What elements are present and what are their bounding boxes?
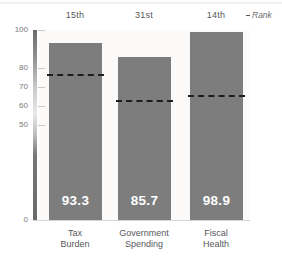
y-axis-tick-mark [38, 30, 45, 31]
rank-line-tax-burden [47, 74, 104, 76]
rank-header-row: 15th 31st 14th Rank [0, 8, 282, 24]
dashed-line-icon [246, 15, 250, 17]
y-axis-tick-mark [38, 87, 45, 88]
bar-value-tax-burden: 93.3 [49, 194, 103, 208]
category-label-line-2: Health [178, 239, 254, 250]
y-axis-strip [33, 30, 37, 220]
rank-line-fiscal-health [188, 95, 245, 97]
rank-legend-label: Rank [252, 10, 272, 20]
bar-value-fiscal-health: 98.9 [190, 194, 244, 208]
rank-legend: Rank [246, 8, 272, 22]
rank-label-government-spending: 31st [117, 8, 171, 22]
y-axis-tick-label: 100 [0, 26, 28, 34]
y-axis-tick-label: 70 [0, 83, 28, 91]
bar-fiscal-health[interactable] [190, 32, 243, 220]
category-label-tax-burden: Tax Burden [37, 228, 113, 250]
y-axis-tick-mark [38, 68, 45, 69]
top-divider [0, 2, 282, 4]
y-axis-tick-label: 80 [0, 64, 28, 72]
category-label-line-2: Spending [106, 239, 182, 250]
y-axis-tick-mark [38, 125, 45, 126]
category-label-fiscal-health: Fiscal Health [178, 228, 254, 250]
x-axis-baseline [33, 220, 250, 221]
y-axis-tick-label: 0 [0, 216, 28, 224]
category-label-line-1: Tax [37, 228, 113, 239]
bar-value-government-spending: 85.7 [118, 194, 172, 208]
y-axis-tick-mark [38, 106, 45, 107]
rank-label-tax-burden: 15th [48, 8, 102, 22]
category-label-line-1: Fiscal [178, 228, 254, 239]
category-label-line-1: Government [106, 228, 182, 239]
y-axis-tick-label: 60 [0, 102, 28, 110]
category-label-line-2: Burden [37, 239, 113, 250]
rank-label-fiscal-health: 14th [189, 8, 243, 22]
y-axis-tick-label: 50 [0, 121, 28, 129]
category-label-government-spending: Government Spending [106, 228, 182, 250]
chart-container: 15th 31st 14th Rank 100807060500 93.385.… [0, 0, 282, 261]
rank-line-government-spending [116, 100, 173, 102]
